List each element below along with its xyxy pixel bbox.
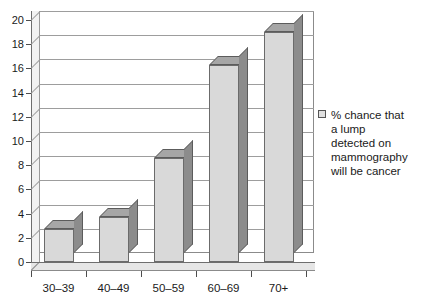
x-axis-label: 30–39 <box>43 282 75 293</box>
y-axis-label: 12 <box>12 111 24 122</box>
y-axis-tick <box>26 141 31 142</box>
bar-side-face <box>239 47 248 253</box>
x-axis-label: 70+ <box>269 282 289 293</box>
bar-front-face <box>99 217 129 262</box>
legend-label-line-2: detected on <box>331 136 408 150</box>
legend-label-line-3: mammography <box>331 150 408 164</box>
x-axis-label: 50–59 <box>153 282 185 293</box>
y-axis-tick <box>26 189 31 190</box>
bar-side-face <box>294 14 303 253</box>
chart-figure: 02468101214161820 30–3940–4950–5960–6970… <box>0 0 424 293</box>
bar-side-face <box>184 140 193 253</box>
x-axis-tick <box>306 271 307 277</box>
gridline <box>40 11 314 12</box>
x-axis-tick <box>86 271 87 277</box>
y-axis-tick <box>26 117 31 118</box>
bar <box>264 32 294 262</box>
x-axis-tick <box>31 271 32 277</box>
x-axis-label: 40–49 <box>98 282 130 293</box>
y-axis-label: 4 <box>18 208 24 219</box>
bar <box>209 65 239 262</box>
y-axis-label: 20 <box>12 15 24 26</box>
y-axis-label: 10 <box>12 136 24 147</box>
y-axis-tick <box>26 238 31 239</box>
y-axis-label: 16 <box>12 63 24 74</box>
y-axis-line <box>31 11 32 262</box>
x-axis-line <box>31 262 315 263</box>
y-axis-label: 8 <box>18 160 24 171</box>
legend-label-line-4: will be cancer <box>331 164 408 178</box>
chart-legend: % chance thata lumpdetected onmammograph… <box>318 108 408 178</box>
bar-front-face <box>154 158 184 262</box>
legend-label-line-0: % chance that <box>331 108 408 122</box>
bar <box>44 229 74 262</box>
y-axis-tick <box>26 44 31 45</box>
bar-front-face <box>44 229 74 262</box>
legend-label: % chance thata lumpdetected onmammograph… <box>331 108 408 178</box>
y-axis-tick <box>26 165 31 166</box>
y-axis-tick <box>26 262 31 263</box>
y-axis-tick <box>26 214 31 215</box>
y-axis-label: 18 <box>12 39 24 50</box>
legend-swatch-icon <box>318 110 326 118</box>
y-axis-label: 6 <box>18 184 24 195</box>
bar <box>99 217 129 262</box>
chart-floor-corner <box>31 262 44 275</box>
y-axis-label: 14 <box>12 87 24 98</box>
x-axis-tick <box>196 271 197 277</box>
y-axis-tick <box>26 93 31 94</box>
bar-front-face <box>209 65 239 262</box>
legend-label-line-1: a lump <box>331 122 408 136</box>
y-axis-label: 2 <box>18 232 24 243</box>
bar <box>154 158 184 262</box>
x-axis-tick <box>141 271 142 277</box>
y-axis-tick <box>26 68 31 69</box>
x-axis-label: 60–69 <box>208 282 240 293</box>
y-axis-tick <box>26 20 31 21</box>
bar-side-face <box>129 199 138 253</box>
x-axis-tick <box>251 271 252 277</box>
bar-front-face <box>264 32 294 262</box>
chart-floor <box>31 262 315 271</box>
plot-area: 02468101214161820 30–3940–4950–5960–6970… <box>31 20 306 262</box>
y-axis-label: 0 <box>18 257 24 268</box>
